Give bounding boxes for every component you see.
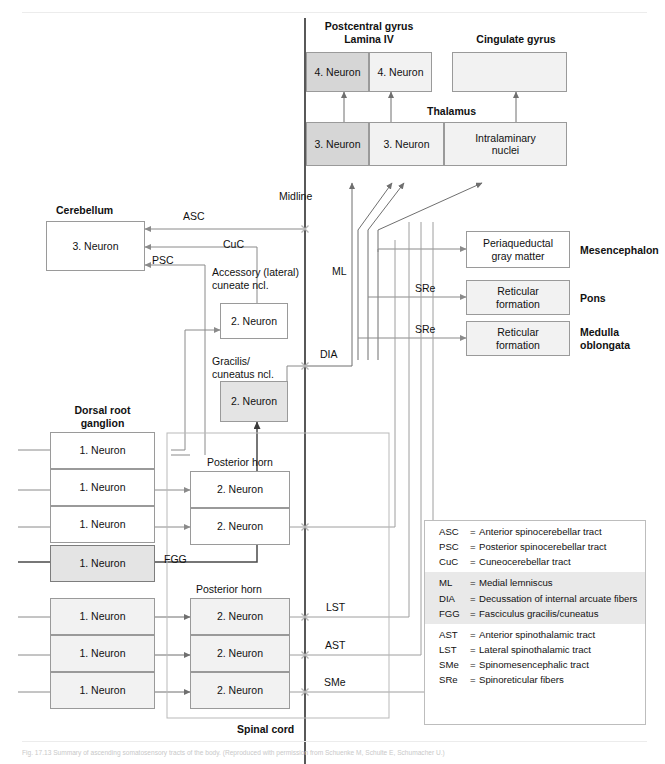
legend-equals: = — [470, 672, 479, 687]
legend-equals: = — [470, 539, 479, 554]
ast-label: AST — [325, 639, 345, 652]
drg-neuron-2[interactable]: 1. Neuron — [50, 469, 155, 506]
drg-neuron-1[interactable]: 1. Neuron — [50, 432, 155, 469]
legend-equals: = — [470, 524, 479, 539]
drg-neuron-5[interactable]: 1. Neuron — [50, 598, 155, 635]
sre-pons-label: SRe — [415, 282, 435, 295]
legend-row: SMe = Spinomesencephalic tract — [425, 657, 645, 672]
psc-label: PSC — [152, 254, 174, 267]
legend-row: AST = Anterior spinothalamic tract — [425, 627, 645, 642]
lamina-iv-label: Lamina IV — [310, 33, 428, 46]
legend-abbr: LST — [439, 642, 470, 657]
accessory-cuneate-label: Accessory (lateral) cuneate ncl. — [212, 266, 299, 291]
posterior-horn-upper-neuron2-2[interactable]: 2. Neuron — [190, 508, 290, 545]
cingulate-gyrus-box[interactable] — [452, 52, 567, 92]
legend-abbr: ASC — [439, 524, 470, 539]
dia-label: DIA — [320, 348, 338, 361]
periaqueductal-gray-box[interactable]: Periaqueductal gray matter — [466, 231, 570, 268]
drg-neuron-7[interactable]: 1. Neuron — [50, 672, 155, 709]
posterior-horn-lower-neuron2-1[interactable]: 2. Neuron — [190, 598, 290, 635]
legend-definition: Posterior spinocerebellar tract — [479, 539, 645, 554]
drg-neuron-3[interactable]: 1. Neuron — [50, 506, 155, 543]
legend-definition: Spinomesencephalic tract — [479, 657, 645, 672]
legend-abbr: SRe — [439, 672, 470, 687]
posterior-horn-lower-label: Posterior horn — [196, 583, 262, 596]
legend-group-cerebellar: ASC = Anterior spinocerebellar tract PSC… — [425, 521, 645, 572]
bottom-divider — [22, 741, 647, 742]
drg-neuron-4-highlighted[interactable]: 1. Neuron — [50, 545, 155, 582]
ml-label: ML — [332, 265, 347, 278]
legend-row: LST = Lateral spinothalamic tract — [425, 642, 645, 657]
legend-row: CuC = Cuneocerebellar tract — [425, 554, 645, 569]
legend-definition: Medial lemniscus — [479, 575, 645, 590]
neuron4-left-box[interactable]: 4. Neuron — [306, 52, 369, 92]
neuron3-left-box[interactable]: 3. Neuron — [306, 122, 369, 166]
legend-equals: = — [470, 657, 479, 672]
midline-label: Midline — [279, 190, 312, 203]
legend-row: FGG = Fasciculus gracilis/cuneatus — [425, 606, 645, 621]
reticular-formation-medulla-box[interactable]: Reticular formation — [466, 321, 570, 356]
legend-definition: Cuneocerebellar tract — [479, 554, 645, 569]
legend-abbr: FGG — [439, 606, 470, 621]
posterior-horn-lower-neuron2-2[interactable]: 2. Neuron — [190, 635, 290, 672]
cuc-label: CuC — [223, 238, 244, 251]
legend-equals: = — [470, 575, 479, 590]
asc-label: ASC — [183, 210, 205, 223]
postcentral-gyrus-label: Postcentral gyrus — [310, 20, 428, 33]
legend-definition: Spinoreticular fibers — [479, 672, 645, 687]
legend-equals: = — [470, 554, 479, 569]
legend-row: SRe = Spinoreticular fibers — [425, 672, 645, 687]
cerebellum-label: Cerebellum — [56, 204, 113, 217]
sre-medulla-label: SRe — [415, 323, 435, 336]
neuron4-right-box[interactable]: 4. Neuron — [369, 52, 432, 92]
legend-definition: Anterior spinocerebellar tract — [479, 524, 645, 539]
legend-abbr: AST — [439, 627, 470, 642]
legend-panel: ASC = Anterior spinocerebellar tract PSC… — [424, 520, 646, 725]
legend-row: PSC = Posterior spinocerebellar tract — [425, 539, 645, 554]
legend-group-lemniscal: ML = Medial lemniscus DIA = Decussation … — [425, 572, 645, 623]
spinal-cord-label: Spinal cord — [237, 723, 294, 736]
figure-root: Postcentral gyrus Lamina IV Cingulate gy… — [0, 0, 665, 764]
posterior-horn-upper-label: Posterior horn — [207, 456, 273, 469]
thalamus-label: Thalamus — [427, 105, 476, 118]
reticular-formation-pons-box[interactable]: Reticular formation — [466, 280, 570, 315]
legend-equals: = — [470, 642, 479, 657]
legend-equals: = — [470, 591, 479, 606]
mesencephalon-label: Mesencephalon — [580, 244, 659, 257]
medulla-oblongata-label: Medulla oblongata — [580, 326, 630, 351]
sme-label: SMe — [324, 676, 346, 689]
legend-row: DIA = Decussation of internal arcuate fi… — [425, 591, 645, 606]
legend-abbr: DIA — [439, 591, 470, 606]
neuron3-mid-box[interactable]: 3. Neuron — [369, 122, 444, 166]
posterior-horn-upper-neuron2-1[interactable]: 2. Neuron — [190, 471, 290, 508]
legend-definition: Fasciculus gracilis/cuneatus — [479, 606, 645, 621]
dorsal-root-ganglion-label: Dorsal root ganglion — [50, 404, 155, 429]
legend-equals: = — [470, 627, 479, 642]
lst-label: LST — [326, 601, 345, 614]
figure-caption: Fig. 17.13 Summary of ascending somatose… — [22, 749, 647, 758]
intralaminary-nuclei-box[interactable]: Intralaminary nuclei — [444, 122, 567, 166]
legend-group-spinothalamic: AST = Anterior spinothalamic tract LST =… — [425, 624, 645, 691]
gracilis-cuneatus-neuron2-box[interactable]: 2. Neuron — [220, 381, 288, 422]
accessory-cuneate-neuron2-box[interactable]: 2. Neuron — [220, 303, 288, 339]
legend-definition: Lateral spinothalamic tract — [479, 642, 645, 657]
legend-abbr: ML — [439, 575, 470, 590]
pons-label: Pons — [580, 292, 606, 305]
legend-abbr: SMe — [439, 657, 470, 672]
fgg-label: FGG — [164, 553, 187, 566]
cerebellum-neuron3-box[interactable]: 3. Neuron — [46, 221, 145, 271]
legend-definition: Anterior spinothalamic tract — [479, 627, 645, 642]
legend-row: ASC = Anterior spinocerebellar tract — [425, 524, 645, 539]
legend-row: ML = Medial lemniscus — [425, 575, 645, 590]
gracilis-cuneatus-label: Gracilis/ cuneatus ncl. — [212, 355, 274, 380]
drg-neuron-6[interactable]: 1. Neuron — [50, 635, 155, 672]
cingulate-gyrus-label: Cingulate gyrus — [455, 33, 577, 46]
legend-definition: Decussation of internal arcuate fibers — [479, 591, 645, 606]
posterior-horn-lower-neuron2-3[interactable]: 2. Neuron — [190, 672, 290, 709]
legend-abbr: PSC — [439, 539, 470, 554]
legend-abbr: CuC — [439, 554, 470, 569]
legend-equals: = — [470, 606, 479, 621]
